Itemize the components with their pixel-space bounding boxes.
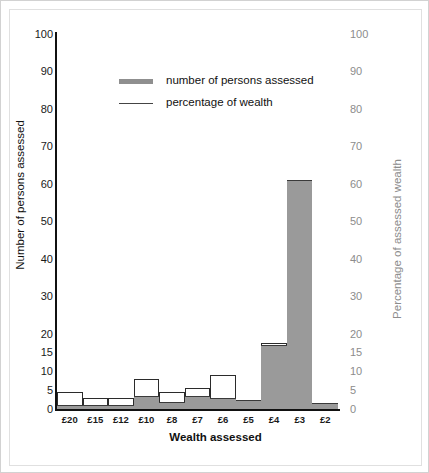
y-axis-right-tick-label: 0 <box>350 404 390 415</box>
number-of-persons-bar <box>210 398 236 409</box>
number-of-persons-bar <box>159 402 185 410</box>
y-axis-right-tick-label: 15 <box>350 347 390 358</box>
y-axis-left-tick-label: 20 <box>7 329 53 340</box>
y-axis-right-tick-label: 10 <box>350 366 390 377</box>
number-of-persons-bar <box>312 403 338 409</box>
y-axis-left-tick-label: 0 <box>7 404 53 415</box>
number-of-persons-bar <box>185 396 211 409</box>
legend-label-percentage: percentage of wealth <box>166 95 273 110</box>
number-of-persons-bar <box>287 180 313 409</box>
x-axis-tick-label: £12 <box>108 415 134 425</box>
number-of-persons-bar <box>108 405 134 409</box>
number-of-persons-bar <box>83 405 109 409</box>
x-axis-tick-label: £7 <box>185 415 211 425</box>
legend-item-percentage: percentage of wealth <box>119 93 339 115</box>
y-axis-right-tick-label: 80 <box>350 104 390 115</box>
x-axis-tick-label: £20 <box>57 415 83 425</box>
number-of-persons-bar <box>261 345 287 409</box>
y-axis-right-tick-label: 30 <box>350 291 390 302</box>
legend-swatch-thick-line-icon <box>119 79 153 84</box>
y-axis-right-tick-label: 40 <box>350 254 390 265</box>
legend-swatch-thin-line-icon <box>119 103 153 104</box>
y-axis-left-title: Number of persons assessed <box>14 100 26 290</box>
y-axis-right-tick-label: 5 <box>350 385 390 396</box>
y-axis-right-tick-label: 100 <box>350 29 390 40</box>
y-axis-left-tick-label: 100 <box>7 29 53 40</box>
x-axis-tick-label: £5 <box>236 415 262 425</box>
bar-group[interactable] <box>57 34 83 409</box>
x-axis-tick-label: £8 <box>159 415 185 425</box>
number-of-persons-bar <box>57 405 83 409</box>
x-axis-tick-label: £3 <box>287 415 313 425</box>
y-axis-left-tick-label: 10 <box>7 366 53 377</box>
number-of-persons-bar <box>236 400 262 409</box>
y-axis-left-tick-label: 15 <box>7 347 53 358</box>
x-axis-tick-label: £10 <box>134 415 160 425</box>
number-of-persons-bar <box>134 396 160 409</box>
y-axis-right-tick-label: 90 <box>350 66 390 77</box>
y-axis-right-tick-label: 50 <box>350 216 390 227</box>
chart-legend: number of persons assessed percentage of… <box>119 71 339 115</box>
y-axis-left-tick-label: 90 <box>7 66 53 77</box>
y-axis-right-tick-label: 20 <box>350 329 390 340</box>
legend-label-persons: number of persons assessed <box>166 73 314 88</box>
y-axis-right-ticks: 0510152030405060708090100 <box>350 1 394 473</box>
x-axis-line <box>55 409 340 411</box>
y-axis-left-tick-label: 5 <box>7 385 53 396</box>
chart-figure: 0510152030405060708090100 05101520304050… <box>0 0 429 473</box>
bar-group[interactable] <box>83 34 109 409</box>
x-axis-tick-label: £6 <box>210 415 236 425</box>
y-axis-right-tick-label: 70 <box>350 141 390 152</box>
y-axis-left-tick-label: 30 <box>7 291 53 302</box>
x-axis-tick-label: £15 <box>83 415 109 425</box>
y-axis-right-tick-label: 60 <box>350 179 390 190</box>
x-axis-tick-label: £4 <box>261 415 287 425</box>
y-axis-left-ticks: 0510152030405060708090100 <box>3 1 53 473</box>
legend-item-persons: number of persons assessed <box>119 71 339 93</box>
x-axis-tick-label: £2 <box>312 415 338 425</box>
y-axis-right-title: Percentage of assessed wealth <box>391 139 403 339</box>
x-axis-title: Wealth assessed <box>1 431 429 443</box>
